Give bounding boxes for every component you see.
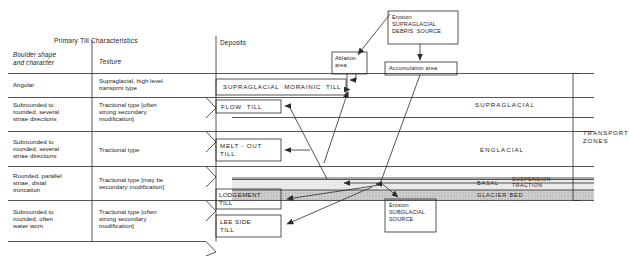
header-primary-till-characteristics: Primary Till Characteristics: [54, 37, 138, 45]
source-box-subglacial-erosion: Erosion SUBGLACIAL SOURCE: [389, 202, 425, 223]
table-row-4-boulder: Rounded, parallel striae, distal truncat…: [13, 172, 62, 194]
arrow-accumulation-to-basal: [376, 75, 420, 184]
source-box-accumulation-area: Accumulation area: [389, 65, 437, 72]
header-deposits: Deposits: [220, 39, 246, 47]
deposit-flow-till: FLOW TILL: [221, 103, 262, 110]
chevron-row3: [206, 167, 216, 188]
chevron-row4: [206, 201, 216, 222]
arrow-ablation-to-smt-upper: [350, 74, 356, 80]
chevron-row2: [206, 132, 216, 153]
table-row-2-boulder: Subrounded to rounded, several striae di…: [13, 101, 59, 123]
table-row-1-texture: Supraglacial, high level transprnt type: [99, 77, 163, 91]
table-row-3-boulder: Subrounded to rounded, several striae di…: [13, 138, 59, 160]
header-texture: Texture: [99, 58, 121, 66]
transport-zones-title: TRANSPORT ZONES: [583, 129, 629, 145]
zone-label-glacier-bed: GLACIER BED: [477, 192, 523, 199]
deposit-lodgement-till: LODGEMENT TILL: [219, 191, 261, 208]
table-row-5-texture: Tractional type [often strong secondary …: [99, 208, 157, 230]
table-row-3-texture: Tractional type: [99, 146, 140, 153]
table-row-1-boulder: Angular: [13, 81, 34, 88]
deposit-melt-out-till: MELT - OUT TILL: [220, 142, 262, 159]
arrow-diagonal-to-smt: [324, 92, 348, 164]
deposit-supraglacial-morainic-till: SUPRAGLACIAL MORAINIC TILL: [223, 83, 341, 90]
deposit-lee-side-till: LEE SIDE TILL: [220, 218, 251, 235]
arrow-to-flow-till: [285, 106, 327, 179]
table-row-5-boulder: Subrounded to rounded, often water worn: [13, 208, 54, 230]
chevron-row5: [206, 242, 216, 256]
chevron-row1: [206, 98, 216, 119]
source-box-supraglacial-debris: Erosion SUPRAGLACIAL DEBRIS SOURCE: [392, 14, 441, 35]
zone-label-englacial: ENGLACIAL: [480, 146, 524, 153]
source-box-ablation-area: Ablation area: [335, 55, 356, 69]
zone-label-basal: BASAL: [477, 180, 499, 187]
zone-label-traction: TRACTION: [512, 183, 543, 189]
table-row-4-texture: Tractional type [may be secondary modifi…: [99, 176, 164, 190]
zone-label-supraglacial: SUPRAGLACIAL: [475, 101, 535, 108]
arrow-ablation-to-smt-lower: [347, 74, 350, 90]
arrow-source-to-ablation: [358, 14, 390, 55]
header-boulder-shape-and-character: Boulder shape and character: [13, 51, 56, 66]
table-row-2-texture: Tractional type [often strong secondary …: [99, 101, 157, 123]
